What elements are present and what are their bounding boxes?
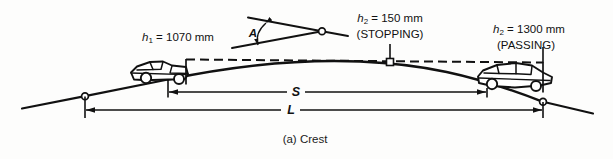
sedan-front-wheel bbox=[487, 79, 497, 89]
figure-caption: (a) Crest bbox=[283, 133, 328, 146]
truck-rear-wheel bbox=[174, 74, 184, 84]
right-tangent-grade bbox=[543, 102, 593, 114]
pvi-vertex-circle bbox=[319, 28, 326, 35]
dimension-s bbox=[168, 80, 487, 98]
passing-object-height-label: h2 = 1300 mm bbox=[493, 23, 565, 37]
sight-distance-label: S bbox=[292, 85, 300, 99]
left-vehicle-pickup bbox=[131, 62, 188, 85]
crest-vertical-curve-figure: h1 = 1070 mm h2 = 150 mm (STOPPING) h2 =… bbox=[0, 0, 613, 159]
grade-break-markers bbox=[82, 93, 547, 105]
angle-a-label: A bbox=[249, 27, 257, 40]
angle-lower-tangent-line bbox=[232, 31, 322, 48]
passing-qualifier-label: (PASSING) bbox=[497, 39, 555, 52]
stopping-object-height-label: h2 = 150 mm bbox=[357, 12, 423, 26]
right-vehicle-sedan bbox=[478, 63, 552, 91]
sedan-rear-wheel bbox=[531, 81, 541, 91]
truck-front-wheel bbox=[141, 73, 151, 83]
stopping-qualifier-label: (STOPPING) bbox=[357, 28, 424, 41]
h2-stopping-value: = 150 mm bbox=[368, 12, 423, 24]
driver-eye-height-label: h1 = 1070 mm bbox=[142, 31, 214, 45]
dimension-l bbox=[85, 97, 543, 119]
h1-value: = 1070 mm bbox=[153, 31, 214, 43]
h2-passing-value: = 1300 mm bbox=[504, 23, 565, 35]
curve-length-label: L bbox=[287, 103, 295, 117]
angle-upper-tangent-line bbox=[248, 18, 322, 32]
stopping-object-marker bbox=[387, 59, 394, 66]
